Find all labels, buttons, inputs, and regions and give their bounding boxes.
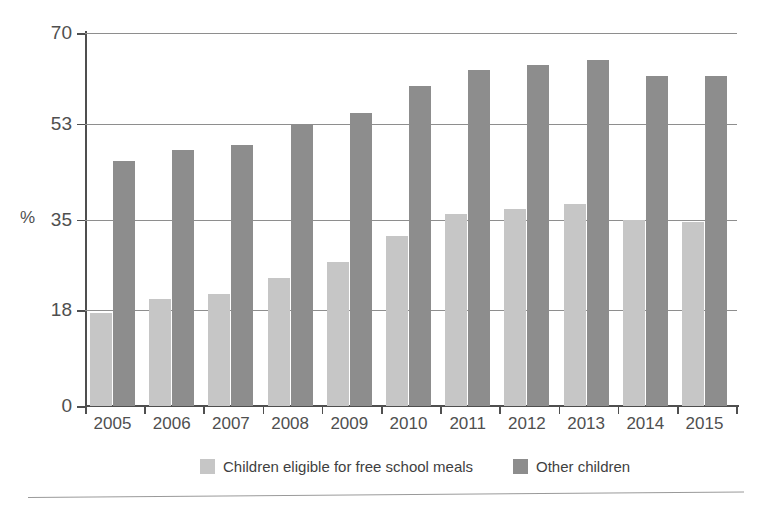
x-axis-tick	[440, 406, 442, 414]
bar-2012-series1	[504, 209, 526, 406]
x-axis-tick-label: 2014	[626, 414, 664, 434]
bar-chart-figure: % 018355370 2005200620072008200920102011…	[0, 0, 757, 509]
bar-2014-series2	[646, 76, 668, 406]
x-axis-tick	[263, 406, 265, 414]
x-axis-tick-label: 2006	[153, 414, 191, 434]
x-axis-tick	[381, 406, 383, 414]
x-axis-tick	[499, 406, 501, 414]
y-axis-title: %	[20, 208, 35, 228]
x-axis-tick	[677, 406, 679, 414]
y-axis-tick	[77, 406, 85, 408]
gridline	[85, 33, 737, 34]
bar-2007-series2	[231, 145, 253, 406]
x-axis-tick-label: 2005	[94, 414, 132, 434]
legend-label: Children eligible for free school meals	[223, 458, 473, 475]
y-axis-tick	[77, 220, 85, 222]
y-axis-tick-label: 35	[51, 209, 72, 231]
x-axis-tick	[85, 406, 87, 414]
bar-2010-series1	[386, 236, 408, 407]
bar-2011-series1	[445, 214, 467, 406]
legend-label: Other children	[536, 458, 630, 475]
bar-2014-series1	[623, 220, 645, 407]
x-axis-tick	[618, 406, 620, 414]
y-axis-tick	[77, 124, 85, 126]
x-axis-tick-label: 2010	[390, 414, 428, 434]
bar-2006-series1	[149, 299, 171, 406]
x-axis-tick-label: 2013	[567, 414, 605, 434]
bar-2012-series2	[527, 65, 549, 406]
x-axis-tick	[322, 406, 324, 414]
x-axis-tick-label: 2009	[330, 414, 368, 434]
bar-2010-series2	[409, 86, 431, 406]
y-axis-tick-label: 0	[61, 395, 72, 417]
bar-2005-series1	[90, 313, 112, 406]
bar-2009-series2	[350, 113, 372, 406]
bar-2008-series1	[268, 278, 290, 406]
legend-entry-1[interactable]: Children eligible for free school meals	[200, 458, 473, 475]
bar-2006-series2	[172, 150, 194, 406]
x-axis-tick-label: 2015	[686, 414, 724, 434]
legend-entry-2[interactable]: Other children	[513, 458, 630, 475]
plot-area: 018355370	[85, 33, 737, 406]
legend-swatch-icon	[200, 459, 215, 474]
x-axis-tick	[203, 406, 205, 414]
bar-2015-series1	[682, 222, 704, 406]
x-axis-tick	[144, 406, 146, 414]
bar-2005-series2	[113, 161, 135, 406]
bar-2011-series2	[468, 70, 490, 406]
y-axis-tick-label: 53	[51, 113, 72, 135]
x-axis-tick	[736, 406, 738, 414]
bar-2007-series1	[208, 294, 230, 406]
x-axis-tick	[559, 406, 561, 414]
chart-legend: Children eligible for free school mealsO…	[0, 458, 757, 482]
x-axis-tick-label: 2008	[271, 414, 309, 434]
bar-2013-series1	[564, 204, 586, 406]
y-axis-tick	[77, 310, 85, 312]
x-axis-tick-label: 2012	[508, 414, 546, 434]
bar-2013-series2	[587, 60, 609, 406]
y-axis-tick-label: 18	[51, 299, 72, 321]
bar-2009-series1	[327, 262, 349, 406]
bar-2008-series2	[291, 124, 313, 406]
bottom-divider	[28, 491, 744, 498]
y-axis-tick-label: 70	[51, 22, 72, 44]
x-axis-tick-label: 2011	[449, 414, 486, 434]
y-axis-tick	[77, 33, 85, 35]
x-axis-tick-label: 2007	[212, 414, 250, 434]
bar-2015-series2	[705, 76, 727, 406]
legend-swatch-icon	[513, 459, 528, 474]
